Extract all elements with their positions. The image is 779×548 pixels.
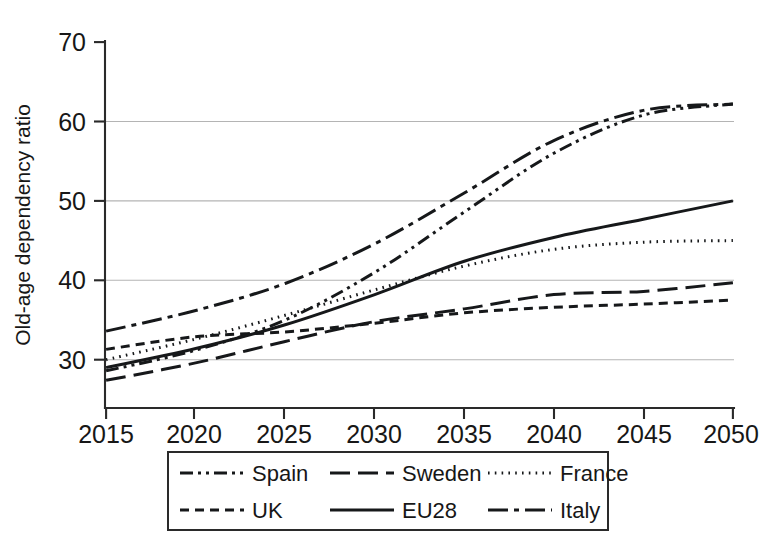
chart-figure: 70 60 50 40 30 Old-age dependency ratio … [0,0,779,548]
x-tick-label-2040: 2040 [526,420,582,448]
legend-label-italy: Italy [560,498,600,523]
x-tick-label-2035: 2035 [436,420,492,448]
y-tick-label-60: 60 [58,108,86,136]
y-axis-title: Old-age dependency ratio [11,104,34,346]
x-tick-label-2015: 2015 [78,420,134,448]
legend: Spain Sweden France UK EU28 Italy [168,452,628,530]
x-tick-label-2045: 2045 [616,420,672,448]
y-tick-label-30: 30 [58,346,86,374]
legend-box [168,452,608,530]
y-tick-label-40: 40 [58,266,86,294]
x-tick-label-2050: 2050 [703,420,759,448]
legend-label-uk: UK [252,498,283,523]
x-axis: 2015 2020 2025 2030 2035 2040 2045 2050 [78,408,759,448]
x-tick-label-2020: 2020 [166,420,222,448]
x-tick-label-2025: 2025 [256,420,312,448]
legend-label-spain: Spain [252,461,308,486]
y-axis: 70 60 50 40 30 [58,28,105,408]
legend-label-eu28: EU28 [402,498,457,523]
legend-label-sweden: Sweden [402,461,482,486]
x-tick-label-2030: 2030 [346,420,402,448]
y-tick-label-50: 50 [58,187,86,215]
line-chart: 70 60 50 40 30 Old-age dependency ratio … [0,0,779,548]
y-tick-label-70: 70 [58,28,86,56]
legend-label-france: France [560,461,628,486]
